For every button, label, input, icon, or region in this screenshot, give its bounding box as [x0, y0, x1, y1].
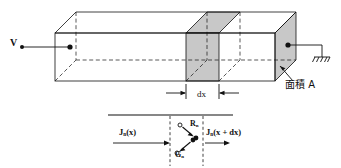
recombination-symbol: R [190, 119, 196, 128]
ground-icon [313, 57, 331, 62]
bar-hidden-edges [55, 12, 296, 81]
voltage-terminal-group [20, 44, 73, 49]
current-in-argument: (x) [126, 127, 136, 137]
recombination-rate-label: Rn [190, 120, 199, 128]
generation-subscript: n [181, 154, 184, 159]
current-out-subscript: n [210, 131, 213, 137]
current-density-in-label: Jn(x) [119, 128, 136, 137]
area-label: 面積 A [285, 80, 315, 90]
slab-top-face [186, 12, 240, 33]
dx-label: dx [197, 90, 206, 99]
current-density-out-label: Jn(x + dx) [206, 128, 241, 137]
voltage-label: V [10, 38, 17, 48]
figure-canvas: V dx 面積 A Jn(x) Jn(x + dx) Rn Gn [0, 0, 341, 168]
bar-contact-dot-icon [67, 44, 72, 49]
bar-top-face [55, 12, 296, 33]
generation-rate-label: Gn [175, 151, 184, 159]
current-out-arrow-icon [205, 141, 230, 146]
recombination-subscript: n [196, 123, 199, 128]
current-out-argument: (x + dx) [213, 127, 241, 137]
current-in-subscript: n [123, 131, 126, 137]
current-in-arrow-icon [113, 141, 170, 146]
slab-front-face [186, 33, 219, 81]
bar-front-face [55, 33, 275, 81]
